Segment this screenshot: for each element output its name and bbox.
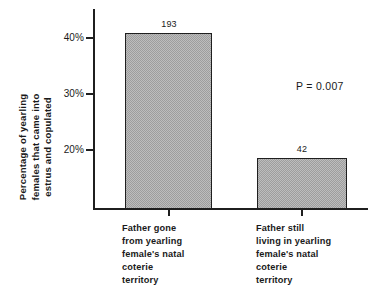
bar-chart-figure: Percentage of yearling females that came… — [0, 0, 391, 308]
y-axis-tick-label-30: 30% — [50, 88, 84, 99]
y-axis-tick-40 — [86, 37, 94, 39]
category-2-line-3: female's natal — [256, 248, 331, 261]
y-axis-line — [93, 9, 95, 210]
x-axis-category-label-2: Father still living in yearling female's… — [256, 222, 331, 287]
y-axis-tick-20 — [86, 149, 94, 151]
bar-value-label-2: 42 — [276, 144, 328, 154]
bar-father-gone — [125, 33, 212, 209]
category-1-line-3: female's natal — [122, 248, 185, 261]
category-2-line-2: living in yearling — [256, 235, 331, 248]
y-axis-tick-30 — [86, 93, 94, 95]
p-value-annotation: P = 0.007 — [296, 80, 344, 92]
category-2-line-1: Father still — [256, 222, 331, 235]
x-axis-category-label-1: Father gone from yearling female's natal… — [122, 222, 185, 287]
category-1-line-4: coterie — [122, 261, 185, 274]
y-axis-tick-label-40: 40% — [50, 32, 84, 43]
category-1-line-2: from yearling — [122, 235, 185, 248]
y-axis-tick-label-20: 20% — [50, 144, 84, 155]
category-2-line-5: territory — [256, 274, 331, 287]
x-axis-tick-2 — [301, 210, 303, 216]
category-1-line-1: Father gone — [122, 222, 185, 235]
x-axis-tick-1 — [168, 210, 170, 216]
category-2-line-4: coterie — [256, 261, 331, 274]
bar-value-label-1: 193 — [143, 19, 195, 29]
category-1-line-5: territory — [122, 274, 185, 287]
bar-father-still — [257, 158, 347, 209]
y-axis-title-line-1: Percentage of yearling — [17, 94, 30, 200]
y-axis-title-line-2: females that came into — [30, 94, 43, 201]
